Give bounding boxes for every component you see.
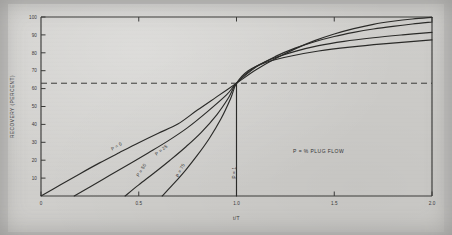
x-tick-label: 2.0 (429, 201, 436, 206)
series-labels: P = 0P = 25P = 50P = 75P = 1 (110, 141, 237, 179)
series-curve (125, 32, 432, 196)
y-tick-label: 90 (32, 33, 38, 38)
plug-flow-annotation: P = % PLUG FLOW (293, 148, 344, 154)
x-tick-label: 1.5 (331, 201, 338, 206)
recovery-vs-time-chart: 102030405060708090100 00.51.01.52.0 P = … (0, 0, 452, 235)
x-axis-title: t/T (233, 215, 240, 221)
series-curve-label: P = 0 (110, 141, 123, 151)
y-tick-label: 60 (32, 86, 38, 91)
x-axis-tick-labels: 00.51.01.52.0 (40, 201, 436, 206)
y-axis-tick-labels: 102030405060708090100 (29, 15, 37, 181)
series-curve (162, 40, 432, 196)
y-tick-label: 20 (32, 158, 38, 163)
y-tick-label: 40 (32, 122, 38, 127)
series-curve-label: P = 1 (233, 167, 238, 179)
y-axis-title: RECOVERY (PERCENT) (10, 75, 15, 138)
y-tick-label: 30 (32, 140, 38, 145)
series-curve-label: P = 75 (175, 162, 186, 177)
y-axis-ticks (41, 17, 46, 178)
series-curve-label: P = 50 (135, 162, 147, 177)
x-tick-label: 1.0 (233, 201, 240, 206)
y-tick-label: 50 (32, 104, 38, 109)
x-tick-label: 0.5 (135, 201, 142, 206)
y-tick-label: 80 (32, 51, 38, 56)
y-tick-label: 70 (32, 68, 38, 73)
series-curve (74, 22, 432, 196)
x-tick-label: 0 (40, 201, 43, 206)
y-tick-label: 100 (29, 15, 37, 20)
y-tick-label: 10 (32, 176, 38, 181)
figure-container: 102030405060708090100 00.51.01.52.0 P = … (0, 0, 452, 235)
